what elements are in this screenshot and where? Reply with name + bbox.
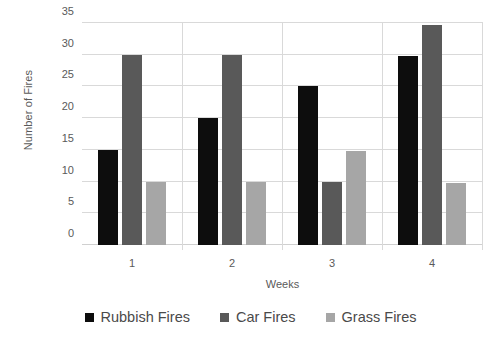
bar-group (382, 23, 482, 245)
bar[interactable] (398, 56, 418, 245)
x-axis-tick-label: 4 (382, 257, 482, 269)
x-axis-tick-label: 1 (82, 257, 182, 269)
bar[interactable] (446, 183, 466, 245)
bar[interactable] (246, 182, 266, 245)
category-group: 4 (382, 23, 482, 245)
legend-label: Car Fires (236, 309, 296, 325)
bar[interactable] (422, 25, 442, 245)
legend-label: Rubbish Fires (101, 309, 190, 325)
y-axis-tick-label: 35 (62, 5, 74, 17)
legend-swatch-icon (326, 313, 335, 322)
y-axis-tick-label: 30 (62, 37, 74, 49)
y-axis-title: Number of Fires (22, 30, 34, 190)
axis-tick-separator (282, 23, 283, 250)
legend-item[interactable]: Grass Fires (326, 309, 417, 325)
x-axis-tick-label: 3 (282, 257, 382, 269)
y-axis-tick-label: 0 (68, 227, 74, 239)
plot-area: 051015202530351234 (82, 23, 483, 245)
bar-group (82, 23, 182, 245)
axis-tick-separator (482, 23, 483, 250)
y-axis-tick-label: 10 (62, 164, 74, 176)
legend-swatch-icon (85, 313, 94, 322)
x-axis-tick-label: 2 (182, 257, 282, 269)
legend-item[interactable]: Rubbish Fires (85, 309, 190, 325)
bar[interactable] (346, 151, 366, 245)
category-group: 2 (182, 23, 282, 245)
chart-legend: Rubbish FiresCar FiresGrass Fires (0, 309, 501, 325)
y-axis-tick-label: 25 (62, 68, 74, 80)
bar-group (182, 23, 282, 245)
bar[interactable] (298, 86, 318, 245)
x-axis-title: Weeks (82, 278, 483, 290)
bar[interactable] (98, 150, 118, 245)
bar[interactable] (122, 55, 142, 245)
axis-tick-separator (382, 23, 383, 250)
bar[interactable] (198, 118, 218, 245)
axis-tick-separator (182, 23, 183, 250)
bar[interactable] (222, 55, 242, 245)
legend-item[interactable]: Car Fires (220, 309, 296, 325)
y-axis-tick-label: 15 (62, 132, 74, 144)
bar-chart: Number of Fires 051015202530351234 Weeks… (0, 0, 501, 351)
bar[interactable] (322, 182, 342, 245)
y-axis-tick-label: 20 (62, 100, 74, 112)
bar-group (282, 23, 382, 245)
category-group: 3 (282, 23, 382, 245)
y-axis-tick-label: 5 (68, 195, 74, 207)
category-group: 1 (82, 23, 182, 245)
bar[interactable] (146, 182, 166, 245)
legend-swatch-icon (220, 313, 229, 322)
legend-label: Grass Fires (342, 309, 417, 325)
